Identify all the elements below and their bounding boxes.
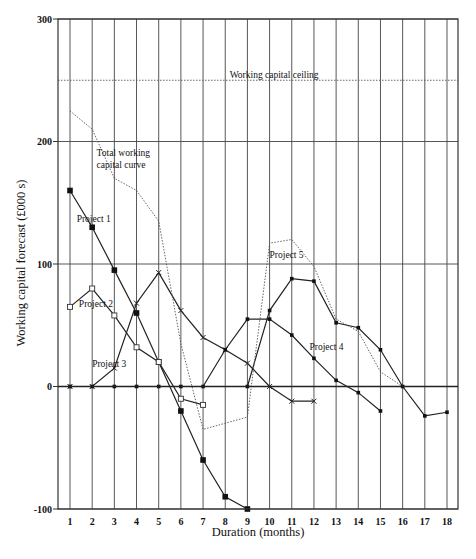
dot-marker — [334, 379, 338, 383]
x-tick-label: 15 — [375, 516, 385, 527]
x-tick-label: 18 — [442, 516, 452, 527]
open-square-marker — [134, 345, 139, 350]
dot-marker — [223, 348, 227, 352]
y-tick-label: 100 — [37, 259, 52, 270]
dot-marker — [334, 321, 338, 325]
dot-marker — [246, 317, 250, 321]
x-tick-label: 3 — [112, 516, 117, 527]
open-square-marker — [112, 313, 117, 318]
annotation-label: Project 5 — [270, 250, 304, 260]
filled-square-marker — [222, 494, 228, 500]
x-tick-label: 12 — [309, 516, 319, 527]
annotation-label: Project 4 — [310, 342, 344, 352]
filled-square-marker — [178, 408, 184, 414]
annotation-label: Working capital ceiling — [230, 70, 319, 80]
dot-marker — [268, 309, 272, 313]
x-tick-label: 14 — [353, 516, 363, 527]
dot-marker — [268, 317, 272, 321]
y-tick-label: 300 — [37, 14, 52, 25]
filled-square-marker — [67, 188, 73, 194]
annotation-label: Project 3 — [92, 359, 126, 369]
y-tick-label: 0 — [47, 381, 52, 392]
dot-marker — [423, 414, 427, 418]
x-tick-label: 5 — [156, 516, 161, 527]
open-square-marker — [178, 396, 183, 401]
x-tick-label: 6 — [178, 516, 183, 527]
filled-square-marker — [112, 267, 118, 273]
dot-marker — [356, 326, 360, 330]
project-3-line — [70, 273, 314, 402]
dot-marker — [312, 357, 316, 361]
y-tick-label: -100 — [34, 504, 52, 515]
y-axis-ticks: -1000100200300 — [34, 14, 58, 515]
annotation-label: Project 2 — [79, 299, 113, 309]
annotations: Working capital ceilingTotal workingcapi… — [77, 70, 344, 369]
dot-marker — [445, 410, 449, 414]
x-tick-label: 1 — [68, 516, 73, 527]
annotation-label: capital curve — [97, 160, 146, 170]
x-tick-label: 17 — [420, 516, 430, 527]
filled-square-marker — [134, 310, 140, 316]
dot-marker — [379, 409, 383, 413]
filled-square-marker — [89, 224, 95, 230]
x-tick-label: 16 — [398, 516, 408, 527]
dot-marker — [290, 333, 294, 337]
grid — [58, 19, 458, 509]
y-tick-label: 200 — [37, 136, 52, 147]
dot-marker — [312, 279, 316, 283]
dot-marker — [379, 348, 383, 352]
open-square-marker — [68, 304, 73, 309]
x-tick-label: 2 — [90, 516, 95, 527]
dot-marker — [356, 391, 360, 395]
project-5-line — [247, 279, 447, 416]
x-tick-label: 4 — [134, 516, 139, 527]
x-axis-label: Duration (months) — [212, 525, 305, 539]
dot-marker — [290, 277, 294, 281]
annotation-label: Total working — [97, 148, 151, 158]
x-tick-label: 7 — [201, 516, 206, 527]
series-lines — [70, 111, 447, 509]
filled-square-marker — [200, 457, 206, 463]
working-capital-chart: -1000100200300 1234567891011121314151617… — [0, 0, 476, 559]
open-square-marker — [90, 286, 95, 291]
open-square-marker — [201, 402, 206, 407]
open-square-marker — [156, 360, 161, 365]
total-working-capital-curve-line — [70, 111, 403, 430]
y-axis-label: Working capital forecast (£000 s) — [14, 180, 28, 347]
annotation-label: Project 1 — [77, 214, 111, 224]
x-tick-label: 13 — [331, 516, 341, 527]
